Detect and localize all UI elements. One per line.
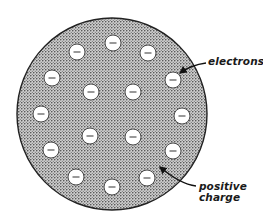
electron <box>139 170 155 186</box>
electron <box>33 106 49 122</box>
electron <box>82 128 98 144</box>
plum-pudding-atom-diagram: electrons positive charge <box>0 0 263 219</box>
electron <box>125 129 141 145</box>
positive-charge-label-line2: charge <box>199 192 247 203</box>
electron <box>105 35 121 51</box>
electron <box>104 179 120 195</box>
electron <box>68 169 84 185</box>
electrons-label: electrons <box>208 56 263 67</box>
electron <box>140 45 156 61</box>
electron <box>165 143 181 159</box>
electron <box>125 84 141 100</box>
positive-charge-label: positive charge <box>199 181 247 203</box>
electron <box>165 72 181 88</box>
electron <box>69 44 85 60</box>
electron <box>83 84 99 100</box>
electron <box>174 108 190 124</box>
electron <box>43 142 59 158</box>
electron <box>44 70 60 86</box>
